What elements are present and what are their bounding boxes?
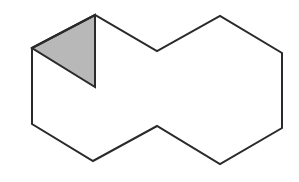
double-hexagon-diagram [0,0,299,182]
shaded-triangle [32,15,95,87]
